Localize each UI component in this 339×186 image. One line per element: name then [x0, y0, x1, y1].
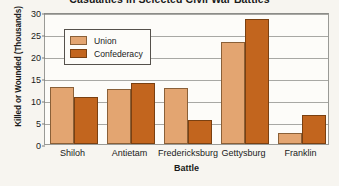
chart-title: Casualties in Selected Civil War Battles — [0, 0, 339, 4]
x-tick-label-antietam: Antietam — [101, 148, 158, 158]
legend-label-union: Union — [94, 36, 116, 46]
bar-chart: Casualties in Selected Civil War Battles… — [0, 0, 339, 186]
legend-swatch-union-icon — [70, 36, 87, 45]
y-tick-label: 20 — [31, 53, 41, 63]
legend-swatch-confederacy-icon — [70, 49, 87, 58]
bar-gettysburg-union — [221, 42, 245, 144]
legend-entry-confederacy: Confederacy — [70, 47, 143, 60]
y-tick-label: 15 — [31, 75, 41, 85]
bar-franklin-confederacy — [302, 115, 326, 144]
bar-group — [273, 14, 330, 144]
bar-shiloh-union — [50, 87, 74, 144]
bar-antietam-union — [107, 89, 131, 144]
x-axis-title: Battle — [44, 163, 329, 173]
bar-gettysburg-confederacy — [245, 19, 269, 144]
y-tick-label: 30 — [31, 9, 41, 19]
x-tick-label-fredericksburg: Fredericksburg — [158, 148, 215, 158]
x-tick-label-franklin: Franklin — [272, 148, 329, 158]
bar-franklin-union — [278, 133, 302, 144]
x-tick-label-gettysburg: Gettysburg — [215, 148, 272, 158]
bar-group — [159, 14, 216, 144]
bar-fredericksburg-confederacy — [188, 120, 212, 144]
y-tick-label: 5 — [36, 119, 41, 129]
bar-fredericksburg-union — [164, 88, 188, 144]
y-tick-mark — [42, 146, 45, 147]
legend-entry-union: Union — [70, 34, 143, 47]
y-tick-label: 10 — [31, 97, 41, 107]
legend: Union Confederacy — [64, 29, 151, 65]
legend-label-confederacy: Confederacy — [94, 49, 143, 59]
x-tick-label-shiloh: Shiloh — [44, 148, 101, 158]
y-tick-label: 25 — [31, 31, 41, 41]
bar-shiloh-confederacy — [74, 97, 98, 144]
y-axis-title: Killed or Wounded (Thousands) — [14, 0, 23, 137]
bar-group — [216, 14, 273, 144]
bar-antietam-confederacy — [131, 83, 155, 144]
y-tick-label: 0 — [36, 141, 41, 151]
